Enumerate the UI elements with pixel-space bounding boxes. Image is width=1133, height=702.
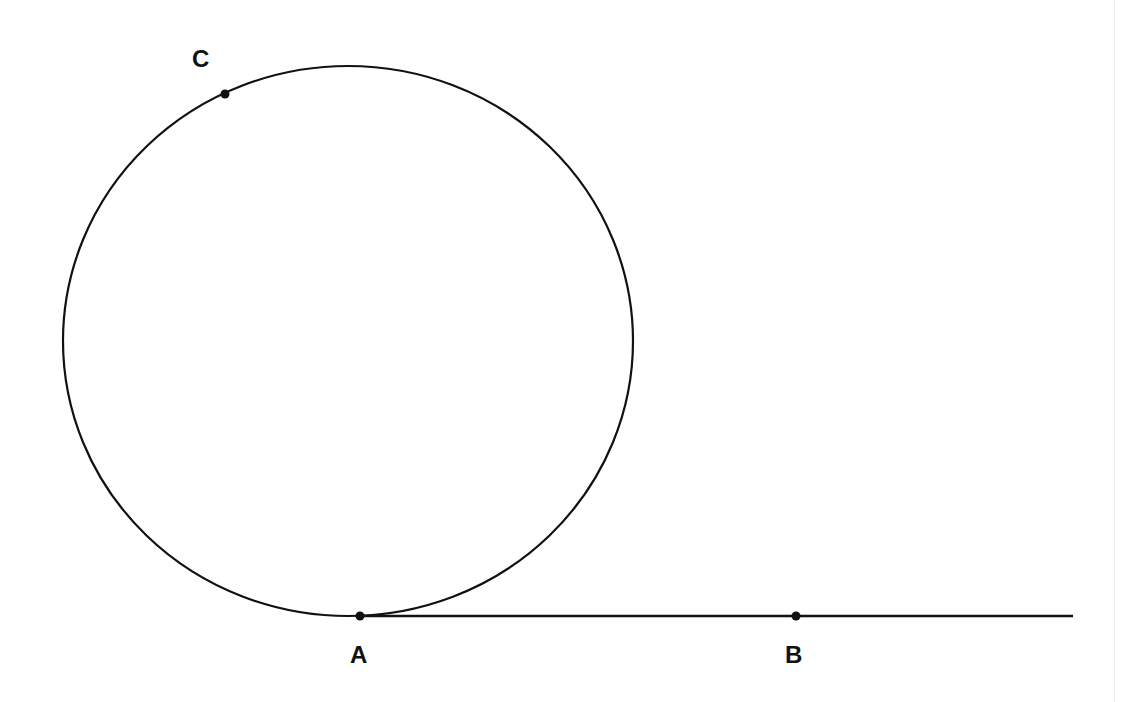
point-a-dot xyxy=(356,612,365,621)
circle xyxy=(63,66,633,616)
point-c-dot xyxy=(221,90,230,99)
point-c-label: C xyxy=(192,47,209,71)
page-edge-shadow xyxy=(1114,0,1115,702)
point-b-dot xyxy=(792,612,801,621)
point-a-label: A xyxy=(350,643,367,667)
diagram-canvas xyxy=(0,0,1133,702)
point-b-label: B xyxy=(785,643,802,667)
